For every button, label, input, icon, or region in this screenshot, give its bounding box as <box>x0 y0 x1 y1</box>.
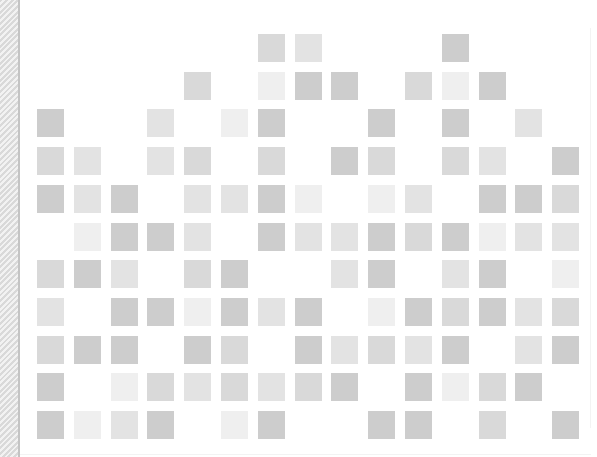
grid-tile <box>479 185 506 213</box>
grid-tile <box>147 109 174 137</box>
grid-tile <box>368 260 395 288</box>
grid-tile <box>74 185 101 213</box>
grid-tile <box>258 109 285 137</box>
grid-tile <box>147 373 174 401</box>
grid-tile <box>111 373 138 401</box>
grid-tile <box>111 223 138 251</box>
grid-tile <box>221 336 248 364</box>
grid-tile <box>515 109 542 137</box>
grid-tile <box>258 373 285 401</box>
grid-tile <box>295 298 322 326</box>
grid-tile <box>74 411 101 439</box>
grid-tile <box>74 147 101 175</box>
grid-tile <box>37 109 64 137</box>
grid-tile <box>37 411 64 439</box>
grid-tile <box>258 147 285 175</box>
grid-tile <box>331 223 358 251</box>
grid-tile <box>295 336 322 364</box>
grid-tile <box>184 223 211 251</box>
grid-tile <box>405 336 432 364</box>
grid-tile <box>479 72 506 100</box>
grid-tile <box>37 185 64 213</box>
grid-tile <box>37 373 64 401</box>
grid-tile <box>368 147 395 175</box>
grid-tile <box>479 223 506 251</box>
grid-tile <box>184 336 211 364</box>
grid-tile <box>331 147 358 175</box>
grid-tile <box>111 336 138 364</box>
grid-tile <box>405 185 432 213</box>
grid-tile <box>442 147 469 175</box>
grid-tile <box>368 185 395 213</box>
grid-tile <box>442 298 469 326</box>
grid-tile <box>221 373 248 401</box>
grid-tile <box>368 298 395 326</box>
grid-tile <box>184 72 211 100</box>
grid-tile <box>37 260 64 288</box>
grid-tile <box>258 298 285 326</box>
grid-tile <box>552 185 579 213</box>
square-tile-grid <box>0 0 597 457</box>
grid-tile <box>368 109 395 137</box>
grid-tile <box>184 185 211 213</box>
grid-tile <box>479 373 506 401</box>
grid-tile <box>258 34 285 62</box>
grid-tile <box>111 298 138 326</box>
grid-tile <box>331 336 358 364</box>
grid-tile <box>258 72 285 100</box>
grid-tile <box>295 185 322 213</box>
grid-tile <box>147 223 174 251</box>
grid-tile <box>111 411 138 439</box>
grid-tile <box>111 185 138 213</box>
grid-tile <box>442 72 469 100</box>
grid-tile <box>221 185 248 213</box>
grid-tile <box>515 185 542 213</box>
grid-tile <box>368 336 395 364</box>
grid-tile <box>552 298 579 326</box>
grid-tile <box>184 260 211 288</box>
grid-tile <box>184 298 211 326</box>
grid-tile <box>258 411 285 439</box>
grid-tile <box>295 34 322 62</box>
grid-tile <box>368 223 395 251</box>
grid-tile <box>221 109 248 137</box>
grid-tile <box>295 223 322 251</box>
grid-tile <box>405 373 432 401</box>
grid-tile <box>147 411 174 439</box>
grid-tile <box>111 260 138 288</box>
grid-tile <box>184 373 211 401</box>
grid-tile <box>331 260 358 288</box>
grid-tile <box>405 223 432 251</box>
grid-tile <box>442 373 469 401</box>
grid-tile <box>552 411 579 439</box>
grid-tile <box>258 223 285 251</box>
grid-tile <box>184 147 211 175</box>
grid-tile <box>442 109 469 137</box>
grid-tile <box>442 336 469 364</box>
pixel-grid-canvas <box>0 0 597 457</box>
grid-tile <box>479 298 506 326</box>
grid-tile <box>331 373 358 401</box>
grid-tile <box>552 147 579 175</box>
grid-tile <box>515 298 542 326</box>
grid-tile <box>221 411 248 439</box>
grid-tile <box>74 336 101 364</box>
grid-tile <box>552 336 579 364</box>
grid-tile <box>295 373 322 401</box>
grid-tile <box>442 260 469 288</box>
grid-tile <box>479 411 506 439</box>
grid-tile <box>405 411 432 439</box>
grid-tile <box>37 147 64 175</box>
grid-tile <box>74 260 101 288</box>
grid-tile <box>442 34 469 62</box>
grid-tile <box>37 336 64 364</box>
grid-tile <box>405 298 432 326</box>
grid-tile <box>515 336 542 364</box>
grid-tile <box>331 72 358 100</box>
grid-tile <box>552 260 579 288</box>
grid-tile <box>552 223 579 251</box>
grid-tile <box>479 147 506 175</box>
grid-tile <box>515 223 542 251</box>
grid-tile <box>147 298 174 326</box>
grid-tile <box>147 147 174 175</box>
